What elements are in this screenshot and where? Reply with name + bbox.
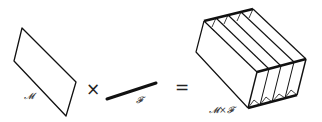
equals-operator: = <box>175 79 189 96</box>
product-space-label: 𝓜×𝓕 <box>209 106 234 115</box>
product-space-shape <box>196 9 306 108</box>
fiber-label: 𝓕 <box>136 96 143 105</box>
fiber-bundle-diagram: 𝓜 × 𝓕 = 𝓜×𝓕 <box>0 0 322 122</box>
times-operator: × <box>86 81 100 98</box>
fiber-shape <box>107 83 156 99</box>
base-manifold-label: 𝓜 <box>24 92 34 101</box>
base-manifold-shape <box>14 28 76 116</box>
